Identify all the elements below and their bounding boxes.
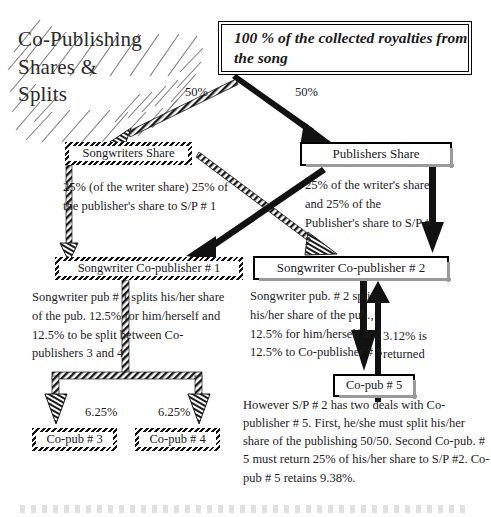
box-songwriter-copublisher-1-label: Songwriter Co-publisher # 1 [59,261,239,276]
note-songwriter-share: 25% (of the writer share) 25% of the pub… [63,178,235,216]
box-copub-4[interactable]: Co-pub # 4 [135,428,220,451]
page-title-line-2: Shares & [18,54,208,82]
note-publisher-share: 25% of the writer's share and 25% of the… [305,176,433,251]
note-copublisher-2: Songwriter pub. # 2 splits his/her share… [250,287,400,362]
box-songwriter-copublisher-1[interactable]: Songwriter Co-publisher # 1 [55,257,243,280]
box-total-royalties-inner: 100 % of the collected royalties from th… [221,24,469,72]
note-copublisher-1: Songwriter pub # 1 splits his/her share … [32,288,232,363]
label-split-right: 50% [295,85,318,100]
label-split-left: 50% [185,85,208,100]
box-copub-4-label: Co-pub # 4 [139,432,216,447]
note-copub-5-deals: However S/P # 2 has two deals with Co-pu… [243,396,491,487]
label-share-copub-4: 6.25% [158,405,190,420]
box-songwriters-share[interactable]: Songwriters Share [65,142,192,165]
page-title: Co-Publishing Shares & Splits [18,26,208,109]
box-songwriters-share-label: Songwriters Share [69,146,188,161]
box-total-royalties[interactable]: 100 % of the collected royalties from th… [218,21,472,75]
label-share-copub-3: 6.25% [85,405,117,420]
page-bottom-cutoff-text [20,505,470,513]
box-publishers-share[interactable]: Publishers Share [300,142,452,166]
box-songwriter-copublisher-2-label: Songwriter Co-publisher # 2 [277,260,425,276]
box-total-royalties-label: 100 % of the collected royalties from th… [234,28,468,68]
label-returned-percentage: 3.12% is returned [383,327,445,363]
box-songwriter-copublisher-2[interactable]: Songwriter Co-publisher # 2 [253,256,449,280]
box-publishers-share-label: Publishers Share [332,146,419,162]
box-copub-3[interactable]: Co-pub # 3 [32,428,117,451]
box-copub-5-label: Co-pub # 5 [346,378,402,393]
page-title-line-3: Splits [18,81,208,109]
diagram-canvas: Co-Publishing Shares & Splits 100 % of t… [0,0,491,517]
box-copub-5[interactable]: Co-pub # 5 [333,374,415,397]
box-copub-3-label: Co-pub # 3 [36,432,113,447]
page-title-line-1: Co-Publishing [18,26,208,54]
